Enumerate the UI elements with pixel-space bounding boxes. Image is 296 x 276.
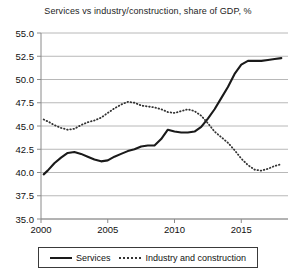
x-tick-label: 2015 <box>231 224 252 235</box>
y-axis-tick-labels: 55.052.550.047.545.042.540.037.535.0 <box>16 28 35 225</box>
y-tick-label: 42.5 <box>16 144 35 155</box>
x-axis-tick-labels: 2000200520102015 <box>30 224 251 235</box>
y-tick-label: 35.0 <box>16 214 35 225</box>
chart-plot-area: 55.052.550.047.545.042.540.037.535.0 200… <box>0 0 296 276</box>
series-line-services <box>44 58 282 174</box>
y-tick-marks-group <box>37 33 41 219</box>
legend-label-services: Services <box>76 253 111 263</box>
x-tick-label: 2005 <box>97 224 118 235</box>
x-tick-label: 2010 <box>164 224 185 235</box>
y-tick-label: 52.5 <box>16 51 35 62</box>
y-tick-label: 50.0 <box>16 74 35 85</box>
y-tick-label: 37.5 <box>16 190 35 201</box>
y-tick-label: 55.0 <box>16 28 35 39</box>
x-tick-label: 2000 <box>30 224 51 235</box>
chart-container: Services vs industry/construction, share… <box>0 0 296 276</box>
y-tick-label: 47.5 <box>16 97 35 108</box>
legend-line-dotted-icon <box>119 257 141 259</box>
legend-label-industry-and-construction: Industry and construction <box>145 253 246 263</box>
y-tick-label: 45.0 <box>16 121 35 132</box>
legend-item-services[interactable]: Services <box>50 253 111 263</box>
legend-line-solid-icon <box>50 257 72 259</box>
data-series-group <box>44 58 282 174</box>
chart-legend: Services Industry and construction <box>38 247 258 268</box>
legend-item-industry-and-construction[interactable]: Industry and construction <box>119 253 246 263</box>
x-tick-marks-group <box>41 219 241 223</box>
y-tick-label: 40.0 <box>16 167 35 178</box>
